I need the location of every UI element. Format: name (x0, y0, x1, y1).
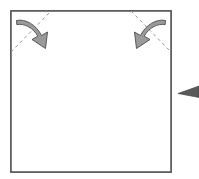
paper-sheet-outline (11, 11, 171, 172)
fold-diagram-canvas: Paper folding step diagram Square sheet … (0, 0, 199, 179)
fold-diagram-container: Paper folding step diagram Square sheet … (0, 0, 199, 179)
next-step-arrow (178, 86, 199, 98)
next-step-arrow-head (178, 86, 199, 98)
